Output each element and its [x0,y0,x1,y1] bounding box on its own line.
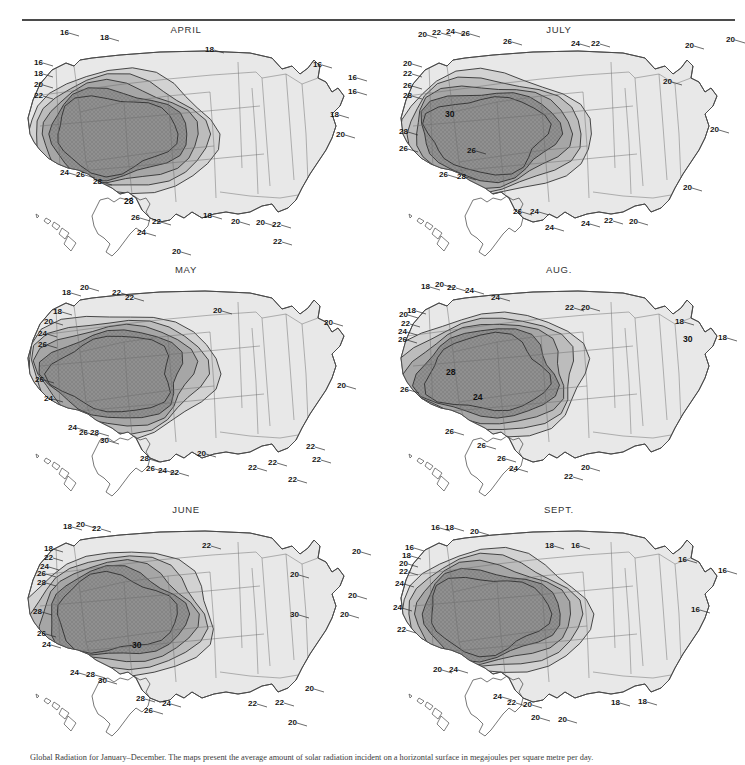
contour-label-22: 22 [44,553,54,562]
contour-leader [43,63,53,66]
contour-label-20: 20 [352,547,362,556]
contour-leader [412,64,422,67]
contour-label-16: 16 [718,566,728,575]
contour-label-20: 20 [34,80,44,89]
contour-label-30: 30 [683,334,693,344]
figure-page: APRIL16181816161616182022182024262828262… [0,0,745,765]
contour-leader [51,645,61,648]
contour-leader [181,252,191,255]
contour-label-28: 28 [446,367,456,377]
contour-leader [257,468,267,471]
contour-label-18: 18 [407,306,417,315]
hawaii-inset [409,454,449,491]
contour-leader [357,92,367,95]
contour-leader [692,188,702,191]
contour-label-28: 28 [37,578,47,587]
hawaii-inset [36,214,76,251]
contour-leader [357,596,367,599]
contour-leader [281,225,291,228]
contour-map-may: 1820222220201820242626242426283028262422… [0,262,372,502]
contour-leader [357,78,367,81]
contour-label-20: 20 [435,280,445,289]
contour-label-26: 26 [146,464,156,473]
contour-label-22: 22 [288,475,298,484]
contour-leader [212,216,222,219]
map-panel-july: JULY202224262624222020202226283028262626… [373,22,745,262]
contour-leader [486,446,496,449]
contour-label-28: 28 [33,607,43,616]
contour-label-22: 22 [403,69,413,78]
contour-label-20: 20 [231,217,241,226]
contour-label-16: 16 [691,605,701,614]
contour-label-20: 20 [433,665,443,674]
contour-label-20: 20 [710,125,720,134]
contour-label-26: 26 [131,213,141,222]
contour-label-22: 22 [202,541,212,550]
contour-leader [458,670,468,673]
contour-label-20: 20 [581,303,591,312]
contour-label-20: 20 [213,306,223,315]
contour-label-20: 20 [685,41,695,50]
contour-label-20: 20 [324,318,334,327]
contour-label-24: 24 [491,293,501,302]
contour-leader [179,473,189,476]
contour-label-26: 26 [439,170,449,179]
contour-label-18: 18 [330,110,340,119]
contour-leader [89,288,99,291]
contour-leader [153,711,163,714]
contour-label-22: 22 [272,220,282,229]
contour-leader [321,460,331,463]
contour-label-24: 24 [38,329,48,338]
contour-label-26: 26 [497,454,507,463]
contour-label-30: 30 [290,610,300,619]
contour-label-28: 28 [86,670,96,679]
contour-map-april: 1618181616161618202218202426282826242218… [0,22,372,262]
contour-label-28: 28 [140,454,150,463]
contour-leader [638,222,648,225]
contour-label-20: 20 [197,449,207,458]
contour-label-28: 28 [399,127,409,136]
contour-label-28: 28 [136,694,146,703]
contour-leader [140,218,150,221]
contour-label-22: 22 [152,217,162,226]
contour-label-20: 20 [399,310,409,319]
contour-label-18: 18 [718,333,728,342]
contour-leader [580,44,590,47]
contour-label-16: 16 [678,555,688,564]
contour-label-20: 20 [305,684,315,693]
contour-label-18: 18 [205,45,215,54]
contour-leader [590,224,600,227]
contour-label-24: 24 [509,464,519,473]
contour-label-24: 24 [44,394,54,403]
contour-leader [727,338,737,341]
contour-label-18: 18 [421,282,431,291]
contour-label-24: 24 [393,603,403,612]
contour-leader [532,705,542,708]
contour-label-22: 22 [604,216,614,225]
contour-leader [573,477,583,480]
contour-label-26: 26 [467,146,477,155]
contour-label-22: 22 [34,91,44,100]
map-panel-august: AUG.182022242422201830181820222426282624… [373,262,745,502]
contour-leader [71,293,81,296]
contour-label-20: 20 [288,718,298,727]
contour-label-20: 20 [683,183,693,192]
contour-label-20: 20 [663,77,673,86]
contour-label-22: 22 [268,458,278,467]
contour-label-22: 22 [275,698,285,707]
contour-label-20: 20 [403,59,413,68]
contour-label-22: 22 [564,472,574,481]
contour-label-18: 18 [44,544,54,553]
contour-label-24: 24 [42,640,52,649]
contour-label-28: 28 [403,91,413,100]
contour-label-26: 26 [37,569,47,578]
contour-leader [314,689,324,692]
figure-caption: Global Radiation for January–December. T… [30,753,730,765]
contour-leader [600,44,610,47]
contour-label-22: 22 [92,524,102,533]
contour-label-20: 20 [531,713,541,722]
contour-leader [567,720,577,723]
contour-leader [161,222,171,225]
contour-label-26: 26 [513,207,523,216]
contour-label-20: 20 [523,700,533,709]
